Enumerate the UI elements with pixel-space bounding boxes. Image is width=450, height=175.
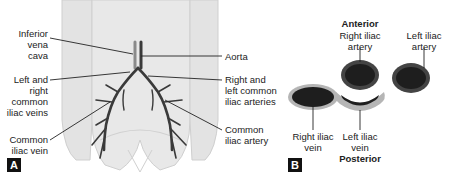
label-left-right-common-iliac-veins: Left and right common iliac veins	[2, 74, 48, 118]
label-aorta: Aorta	[225, 51, 248, 62]
panel-b-tag: B	[288, 158, 302, 172]
torso-figure	[62, 0, 218, 172]
panel-b-cross-sections	[288, 48, 430, 130]
label-posterior: Posterior	[330, 153, 390, 164]
label-left-iliac-vein: Left iliac vein	[330, 131, 390, 153]
label-right-left-common-iliac-arteries: Right and left common iliac arteries	[225, 74, 277, 107]
label-common-iliac-artery: Common iliac artery	[225, 124, 268, 146]
panel-a-tag: A	[7, 158, 21, 172]
label-anterior: Anterior	[335, 18, 385, 29]
label-inferior-vena-cava: Inferior vena cava	[2, 28, 48, 61]
label-right-iliac-artery: Right iliac artery	[330, 30, 390, 52]
label-common-iliac-vein: Common iliac vein	[2, 134, 48, 156]
label-left-iliac-artery: Left iliac artery	[396, 30, 450, 52]
